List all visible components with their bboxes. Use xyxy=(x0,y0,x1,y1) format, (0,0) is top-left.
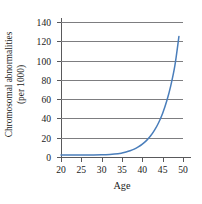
chart-figure: Chromosomal abnormalities (per 1000) 020… xyxy=(0,0,202,204)
x-axis-title: Age xyxy=(61,180,183,191)
x-axis-tick xyxy=(61,158,62,162)
x-axis-tick-label: 25 xyxy=(77,164,87,175)
y-axis-title-line2: (per 1000) xyxy=(16,31,28,137)
x-axis-tick-label: 30 xyxy=(97,164,107,175)
x-axis-tick xyxy=(81,158,82,162)
x-axis-tick-label: 20 xyxy=(56,164,66,175)
x-axis-tick-label: 50 xyxy=(178,164,188,175)
y-axis-tick-label: 80 xyxy=(41,74,51,85)
y-axis-title: Chromosomal abnormalities (per 1000) xyxy=(0,0,32,168)
x-axis-tick xyxy=(102,158,103,162)
y-axis-tick-label: 20 xyxy=(41,132,51,143)
data-curve-path xyxy=(61,36,179,155)
x-axis-tick xyxy=(122,158,123,162)
y-axis-title-line1: Chromosomal abnormalities xyxy=(5,31,15,137)
y-axis-tick-label: 40 xyxy=(41,113,51,124)
y-axis-tick-label: 60 xyxy=(41,94,51,105)
x-axis-tick-label: 35 xyxy=(117,164,127,175)
y-axis-tick-label: 0 xyxy=(46,152,51,163)
x-axis-tick xyxy=(142,158,143,162)
y-axis-title-text: Chromosomal abnormalities (per 1000) xyxy=(5,31,28,137)
x-axis-tick-label: 40 xyxy=(138,164,148,175)
data-curve xyxy=(61,22,183,157)
y-axis-tick-label: 140 xyxy=(37,17,51,28)
x-axis-tick xyxy=(183,158,184,162)
y-axis-tick-label: 120 xyxy=(37,36,51,47)
y-axis-tick-label: 100 xyxy=(37,55,51,66)
plot-area: 020406080100120140 20253035404550 xyxy=(61,22,183,157)
x-axis-tick-label: 45 xyxy=(158,164,168,175)
x-axis-tick xyxy=(163,158,164,162)
